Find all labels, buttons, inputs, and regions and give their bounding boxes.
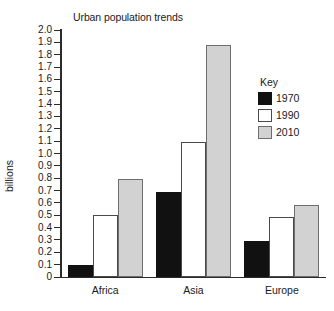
category-label-asia: Asia — [146, 284, 241, 296]
y-tick-label: 1.4 — [0, 99, 52, 109]
y-tick-mark — [54, 104, 60, 105]
y-tick-label: 0 — [0, 272, 52, 282]
legend-item-1970: 1970 — [258, 90, 332, 106]
y-tick-mark — [54, 202, 60, 203]
legend-label-1990: 1990 — [276, 110, 299, 121]
bar-asia-1990 — [181, 142, 206, 277]
y-tick-mark — [54, 67, 60, 68]
bar-africa-1990 — [93, 215, 118, 277]
y-tick-mark — [54, 264, 60, 265]
y-tick-mark — [54, 227, 60, 228]
y-tick-mark — [54, 42, 60, 43]
bar-africa-1970 — [68, 265, 93, 277]
y-tick-mark — [54, 252, 60, 253]
y-tick-label: 1.6 — [0, 74, 52, 84]
y-tick-label: 0.3 — [0, 235, 52, 245]
y-tick-mark — [54, 128, 60, 129]
bar-europe-1990 — [269, 217, 294, 278]
y-tick-label: 0.1 — [0, 260, 52, 270]
bar-europe-2010 — [294, 205, 319, 277]
legend: Key 197019902010 — [258, 76, 332, 141]
y-tick-label: 0.2 — [0, 247, 52, 257]
y-tick-label: 0.8 — [0, 173, 52, 183]
y-tick-label: 0.5 — [0, 210, 52, 220]
y-tick-mark — [54, 91, 60, 92]
y-tick-mark — [54, 79, 60, 80]
y-tick-label: 1.2 — [0, 124, 52, 134]
legend-item-1990: 1990 — [258, 107, 332, 123]
legend-swatch-2010 — [258, 126, 272, 139]
category-label-europe: Europe — [234, 284, 329, 296]
legend-item-2010: 2010 — [258, 124, 332, 140]
bar-chart: Urban population trends billions 2.01.91… — [0, 0, 334, 311]
bar-asia-1970 — [156, 192, 181, 277]
y-tick-mark — [54, 190, 60, 191]
y-tick-mark — [54, 178, 60, 179]
y-tick-label: 1.3 — [0, 111, 52, 121]
y-tick-mark — [54, 277, 60, 278]
category-label-africa: Africa — [58, 284, 153, 296]
y-tick-label: 2.0 — [0, 25, 52, 35]
legend-title: Key — [260, 76, 332, 88]
legend-label-2010: 2010 — [276, 127, 299, 138]
y-tick-mark — [54, 116, 60, 117]
y-tick-label: 1.0 — [0, 149, 52, 159]
y-tick-mark — [54, 165, 60, 166]
y-tick-label: 0.9 — [0, 161, 52, 171]
y-tick-mark — [54, 30, 60, 31]
y-tick-label: 0.7 — [0, 186, 52, 196]
y-tick-label: 1.1 — [0, 136, 52, 146]
legend-swatch-1970 — [258, 92, 272, 105]
y-tick-mark — [54, 239, 60, 240]
y-tick-label: 1.9 — [0, 37, 52, 47]
plot-bars-area — [61, 30, 326, 277]
bar-europe-1970 — [244, 241, 269, 277]
y-tick-label: 1.8 — [0, 50, 52, 60]
y-tick-label: 0.4 — [0, 223, 52, 233]
y-tick-label: 1.7 — [0, 62, 52, 72]
bar-asia-2010 — [206, 45, 231, 277]
y-tick-label: 1.5 — [0, 87, 52, 97]
y-tick-mark — [54, 215, 60, 216]
y-tick-mark — [54, 54, 60, 55]
legend-swatch-1990 — [258, 109, 272, 122]
y-tick-mark — [54, 153, 60, 154]
chart-title: Urban population trends — [73, 11, 183, 23]
legend-label-1970: 1970 — [276, 93, 299, 104]
y-tick-mark — [54, 141, 60, 142]
bar-africa-2010 — [118, 179, 143, 277]
y-tick-label: 0.6 — [0, 198, 52, 208]
